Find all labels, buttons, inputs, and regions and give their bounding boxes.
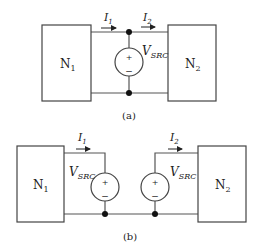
vsrc-left-label: VSRC: [69, 165, 95, 181]
caption-a: (a): [122, 110, 136, 121]
circuit-figure: N1 N2 + − VSRC I1 I2 (a) N1 N2 + − VSRC …: [0, 0, 260, 249]
caption-b: (b): [123, 231, 137, 242]
node-dot: [152, 211, 158, 217]
diagram-b: N1 N2 + − VSRC + − VSRC I1 I2 (b): [17, 131, 246, 242]
minus-sign: −: [125, 66, 133, 76]
i2-label: I2: [142, 11, 152, 26]
diagram-a: N1 N2 + − VSRC I1 I2 (a): [42, 11, 216, 121]
i1-label: I1: [103, 11, 113, 26]
plus-sign: +: [126, 53, 133, 62]
node-dot: [102, 211, 108, 217]
i2-label: I2: [169, 131, 179, 146]
vsrc-label: VSRC: [142, 44, 168, 60]
minus-sign: −: [151, 191, 159, 201]
minus-sign: −: [101, 191, 109, 201]
plus-sign: +: [102, 178, 109, 187]
i1-label: I1: [77, 131, 87, 146]
node-dot: [126, 29, 132, 35]
node-dot: [126, 90, 132, 96]
plus-sign: +: [152, 178, 159, 187]
vsrc-right-label: VSRC: [170, 165, 196, 181]
